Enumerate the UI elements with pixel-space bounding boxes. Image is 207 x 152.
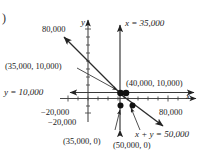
- point-40000-10000[interactable]: [123, 90, 130, 97]
- x-tick-label-neg20000: −20,000: [41, 108, 69, 117]
- point-35000-0[interactable]: [118, 103, 124, 109]
- y-axis: [85, 20, 91, 122]
- leader-35000-10000: [77, 68, 117, 90]
- y-axis-label: y: [81, 18, 85, 27]
- point-50000-0[interactable]: [130, 103, 136, 109]
- leader-50000-0: [131, 108, 140, 130]
- leader-35000-0: [115, 110, 120, 130]
- label-line-x-plus-y-equals-50000: x + y = 50,000: [135, 130, 189, 139]
- x-axis-label: x: [186, 92, 190, 101]
- part-label: ): [2, 12, 6, 24]
- label-point-50000-0: (50,000, 0): [113, 141, 151, 150]
- label-line-x-equals-35000: x = 35,000: [125, 19, 164, 28]
- y-tick-label-80000: 80,000: [42, 25, 65, 34]
- label-point-40000-10000: (40,000, 10,000): [126, 79, 183, 88]
- label-point-35000-0: (35,000, 0): [63, 137, 101, 146]
- y-tick-label-neg20000: −20,000: [48, 118, 76, 127]
- x-axis: [60, 96, 196, 102]
- label-point-35000-10000: (35,000, 10,000): [5, 62, 62, 71]
- x-tick-label-80000: 80,000: [159, 108, 182, 117]
- label-line-y-equals-10000: y = 10,000: [4, 88, 43, 97]
